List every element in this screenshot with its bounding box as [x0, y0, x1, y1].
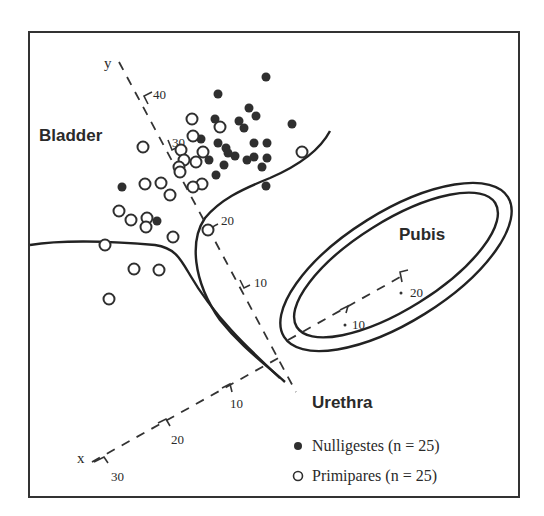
data-point: [141, 222, 152, 233]
anatomy-scatter-figure: 40 30 20 10 10 20 30 10 20 y x Bladder P…: [0, 0, 544, 516]
data-point: [262, 73, 271, 82]
data-point: [252, 112, 261, 121]
data-point: [168, 232, 179, 243]
data-point: [220, 161, 229, 170]
bladder-wall-upper: [30, 242, 280, 378]
data-point: [212, 171, 221, 180]
urethra-label: Urethra: [312, 393, 373, 412]
data-point: [114, 206, 125, 217]
x-axis-label: x: [77, 450, 85, 466]
x-axis-line: [92, 356, 282, 462]
y-tick-label-10: 10: [254, 275, 267, 290]
data-point: [198, 147, 209, 158]
x-tick-label-20: 20: [171, 432, 184, 447]
data-point: [191, 157, 202, 168]
data-point: [243, 156, 252, 165]
pubis-label: Pubis: [399, 225, 445, 244]
legend-filled-circle-icon: [294, 442, 302, 450]
data-point: [118, 183, 127, 192]
data-point: [138, 142, 149, 153]
data-point: [154, 265, 165, 276]
y-axis-label: y: [104, 55, 112, 71]
pubis-tick-10: [340, 306, 348, 313]
pubis-dot-20: [400, 292, 403, 295]
data-point: [297, 147, 308, 158]
y-tick-label-20: 20: [221, 213, 234, 228]
data-point: [188, 182, 199, 193]
x-tick-label-30: 30: [111, 469, 124, 484]
data-point: [214, 139, 223, 148]
pubis-outline: [255, 150, 537, 383]
legend-primipares: Primipares (n = 25): [312, 467, 437, 485]
data-point: [129, 264, 140, 275]
y-tick-40: [144, 92, 152, 104]
data-point: [165, 190, 176, 201]
data-point: [100, 240, 111, 251]
data-point: [214, 90, 223, 99]
x-tick-10: [222, 384, 232, 392]
data-point: [288, 120, 297, 129]
data-point: [153, 217, 162, 226]
pubis-tick-20: [400, 270, 408, 282]
data-point: [240, 124, 249, 133]
data-point: [245, 104, 254, 113]
y-tick-10: [240, 280, 250, 288]
data-point: [250, 139, 259, 148]
data-point: [262, 182, 271, 191]
bladder-label: Bladder: [39, 126, 103, 145]
data-point: [104, 294, 115, 305]
x-tick-label-10: 10: [230, 396, 243, 411]
pubis-dot-10: [344, 324, 347, 327]
data-point: [175, 167, 186, 178]
legend: Nulligestes (n = 25) Primipares (n = 25): [294, 437, 440, 485]
figure-frame: [29, 32, 519, 497]
data-point: [258, 163, 267, 172]
legend-open-circle-icon: [294, 472, 303, 481]
data-point: [263, 139, 272, 148]
data-point: [224, 149, 233, 158]
data-point: [140, 179, 151, 190]
data-point: [203, 225, 214, 236]
data-point: [188, 131, 199, 142]
legend-nulligestes: Nulligestes (n = 25): [312, 437, 440, 455]
pubis-tick-label-10: 10: [352, 317, 365, 332]
data-point: [126, 215, 137, 226]
pubis-tick-label-20: 20: [410, 285, 423, 300]
data-point: [187, 114, 198, 125]
y-tick-label-40: 40: [153, 87, 166, 102]
data-point: [156, 178, 167, 189]
data-point: [215, 122, 226, 133]
data-point: [263, 154, 272, 163]
